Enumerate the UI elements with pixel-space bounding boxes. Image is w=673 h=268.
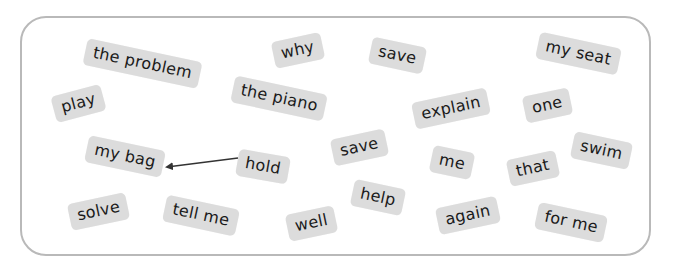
word-chip-play[interactable]: play xyxy=(50,83,106,122)
word-chip-my-seat[interactable]: my seat xyxy=(535,31,621,75)
word-chip-hold[interactable]: hold xyxy=(235,148,291,184)
word-chips-container: the problem why save my seat play the pi… xyxy=(0,0,673,268)
word-chip-one[interactable]: one xyxy=(521,87,572,123)
word-chip-tell-me[interactable]: tell me xyxy=(162,194,240,236)
word-chip-help[interactable]: help xyxy=(350,178,406,215)
word-chip-swim[interactable]: swim xyxy=(569,131,632,170)
word-chip-the-piano[interactable]: the piano xyxy=(230,75,328,121)
word-chip-for-me[interactable]: for me xyxy=(534,201,608,242)
word-chip-that[interactable]: that xyxy=(506,150,560,187)
word-chip-solve[interactable]: solve xyxy=(66,192,130,231)
word-chip-save[interactable]: save xyxy=(367,36,426,74)
word-chip-why[interactable]: why xyxy=(271,32,325,69)
word-chip-my-bag[interactable]: my bag xyxy=(84,135,166,178)
word-chip-again[interactable]: again xyxy=(435,195,501,234)
word-chip-save-2[interactable]: save xyxy=(329,128,388,166)
word-chip-me[interactable]: me xyxy=(429,144,476,179)
word-chip-explain[interactable]: explain xyxy=(411,87,491,129)
word-chip-the-problem[interactable]: the problem xyxy=(82,38,202,89)
word-chip-well[interactable]: well xyxy=(284,205,338,242)
